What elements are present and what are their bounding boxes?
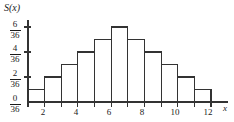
histogram-bar (144, 52, 161, 102)
histogram-bar (194, 90, 211, 103)
histogram-bar (78, 52, 95, 102)
bars-group (28, 27, 211, 102)
histogram-bar (95, 40, 112, 103)
histogram-bar (128, 40, 145, 103)
histogram-bar (61, 65, 78, 103)
histogram-plot-area (0, 0, 234, 122)
histogram-figure: S(x) x 6 36 4 36 2 36 0 36 2 4 6 8 10 12 (0, 0, 234, 122)
histogram-bar (111, 27, 128, 102)
histogram-bar (45, 77, 62, 102)
histogram-bar (161, 65, 178, 103)
histogram-bar (28, 90, 45, 103)
histogram-bar (178, 77, 195, 102)
